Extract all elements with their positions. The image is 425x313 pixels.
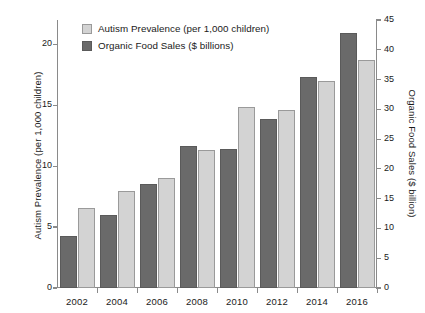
x-axis-tick-label: 2012 <box>255 296 299 307</box>
y-axis-right-tick-label: 0 <box>384 282 424 292</box>
x-axis-tick-label: 2016 <box>335 296 379 307</box>
x-axis-tick <box>137 288 138 293</box>
y-axis-left-tick-label: 5 <box>12 221 52 231</box>
bar-organic-food-sales <box>100 215 117 288</box>
plot-area: 05101520 051015202530354045 200220042006… <box>57 20 377 288</box>
bar-autism-prevalence <box>278 110 295 288</box>
y-axis-right-tick-label: 35 <box>384 74 424 84</box>
y-axis-right-tick-label: 10 <box>384 222 424 232</box>
x-axis-tick <box>257 288 258 293</box>
x-axis-tick-label: 2006 <box>135 296 179 307</box>
y-axis-left-tick <box>53 166 58 167</box>
chart-legend: Autism Prevalence (per 1,000 children)Or… <box>82 22 269 56</box>
bar-autism-prevalence <box>118 191 135 288</box>
x-axis-tick <box>377 288 378 293</box>
legend-item-label: Autism Prevalence (per 1,000 children) <box>98 23 269 34</box>
legend-item-label: Organic Food Sales ($ billions) <box>98 40 234 51</box>
x-axis-tick <box>217 288 218 293</box>
y-axis-right-tick <box>376 168 381 169</box>
legend-item: Autism Prevalence (per 1,000 children) <box>82 22 269 35</box>
x-axis-tick <box>177 288 178 293</box>
y-axis-right-tick <box>376 228 381 229</box>
bar-autism-prevalence <box>238 107 255 289</box>
y-axis-left-tick <box>53 287 58 288</box>
y-axis-left-tick-label: 15 <box>12 99 52 109</box>
y-axis-right-tick <box>376 139 381 140</box>
legend-item: Organic Food Sales ($ billions) <box>82 39 269 52</box>
bar-organic-food-sales <box>300 77 317 288</box>
dual-axis-bar-chart: Autism Prevalence (per 1,000 children) O… <box>0 0 425 313</box>
bar-organic-food-sales <box>140 184 157 288</box>
y-axis-left-tick-label: 0 <box>12 282 52 292</box>
y-axis-right-tick <box>376 49 381 50</box>
y-axis-left-line <box>57 20 58 288</box>
y-axis-left-tick-label: 20 <box>12 38 52 48</box>
y-axis-left-tick <box>53 44 58 45</box>
y-axis-left-tick <box>53 226 58 227</box>
y-axis-left-tick-label: 10 <box>12 160 52 170</box>
legend-swatch-icon <box>82 24 92 34</box>
y-axis-right-tick <box>376 79 381 80</box>
y-axis-right-tick <box>376 258 381 259</box>
bar-organic-food-sales <box>260 119 277 288</box>
x-axis-tick <box>337 288 338 293</box>
bar-autism-prevalence <box>318 81 335 288</box>
y-axis-right-tick-label: 40 <box>384 44 424 54</box>
bar-autism-prevalence <box>198 150 215 288</box>
bar-organic-food-sales <box>60 236 77 288</box>
x-axis-tick-label: 2004 <box>95 296 139 307</box>
y-axis-right-tick-label: 20 <box>384 163 424 173</box>
y-axis-right-line <box>376 20 377 288</box>
y-axis-right-tick <box>376 198 381 199</box>
legend-swatch-icon <box>82 41 92 51</box>
y-axis-right-tick-label: 15 <box>384 193 424 203</box>
bar-autism-prevalence <box>158 178 175 288</box>
x-axis-tick-label: 2008 <box>175 296 219 307</box>
bar-autism-prevalence <box>358 60 375 288</box>
bar-autism-prevalence <box>78 208 95 288</box>
y-axis-left-title: Autism Prevalence (per 1,000 children) <box>32 41 43 271</box>
x-axis-tick-label: 2002 <box>55 296 99 307</box>
y-axis-right-tick-label: 5 <box>384 252 424 262</box>
bar-organic-food-sales <box>180 146 197 288</box>
y-axis-right-tick-label: 30 <box>384 103 424 113</box>
y-axis-right-tick <box>376 19 381 20</box>
x-axis-tick <box>297 288 298 293</box>
y-axis-left-tick <box>53 105 58 106</box>
x-axis-tick-label: 2014 <box>295 296 339 307</box>
bar-organic-food-sales <box>220 149 237 288</box>
y-axis-right-tick-label: 45 <box>384 14 424 24</box>
x-axis-tick <box>97 288 98 293</box>
y-axis-right-tick <box>376 109 381 110</box>
x-axis-tick-label: 2010 <box>215 296 259 307</box>
y-axis-right-tick-label: 25 <box>384 133 424 143</box>
bar-organic-food-sales <box>340 33 357 288</box>
